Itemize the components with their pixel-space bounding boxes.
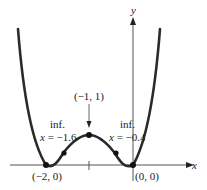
y-axis-arrow-icon — [130, 17, 136, 25]
point-right-root — [130, 162, 136, 168]
left-root-label: (−2, 0) — [32, 170, 62, 183]
point-inflection-left — [61, 150, 66, 155]
right-root-label: (0, 0) — [135, 170, 159, 183]
function-graph: y x (−1, 1) inf. x = −1.6 inf. x = −0.4 … — [0, 0, 207, 190]
point-inflection-right — [113, 150, 118, 155]
x-axis-label: x — [191, 159, 197, 171]
inf-left-eq: x = −1.6 — [39, 131, 77, 143]
inf-left-word: inf. — [50, 118, 65, 130]
max-point-label: (−1, 1) — [74, 90, 104, 103]
point-left-root — [43, 162, 49, 168]
inf-right-eq: x = −0.4 — [108, 131, 146, 143]
max-pointer-arrow-icon — [87, 121, 92, 128]
inf-right-word: inf. — [120, 118, 135, 130]
point-maximum — [86, 132, 92, 138]
y-axis-label: y — [130, 4, 136, 16]
